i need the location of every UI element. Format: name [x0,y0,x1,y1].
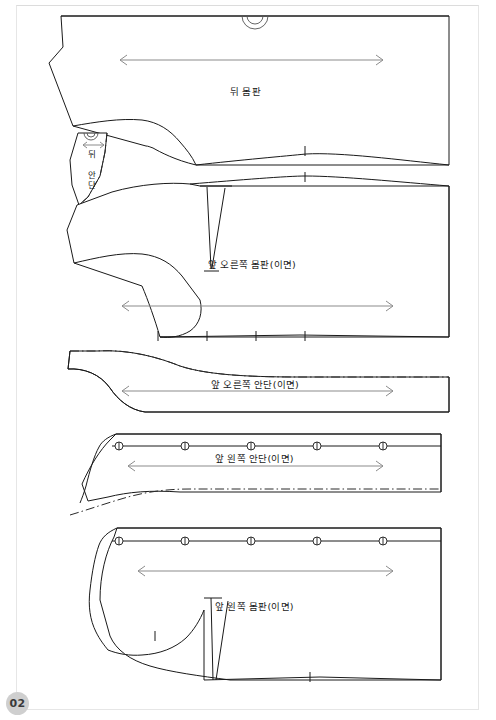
buttonhole-marker [247,537,255,545]
buttonhole-marker [115,537,123,545]
piece-label-back-facing: 뒤 안단 [86,150,95,191]
footer-text [17,714,478,720]
piece-label-front-left-body: 앞 왼쪽 몸판(이면) [215,599,294,613]
buttonhole-marker [379,537,387,545]
piece-label-front-right-facing: 앞 오른쪽 안단(이면) [211,377,299,391]
page-number-badge: 02 [6,692,29,715]
pattern-page: 뒤 몸판 뒤 안단 앞 오른쪽 몸판(이면) 앞 오른쪽 안단(이면) 앞 왼쪽… [0,0,496,720]
buttonhole-marker [115,442,123,450]
piece-label-front-left-facing: 앞 왼쪽 안단(이면) [215,451,294,465]
buttonhole-marker [313,442,321,450]
buttonhole-marker [247,442,255,450]
buttonhole-marker [181,537,189,545]
buttonhole-marker [313,537,321,545]
buttonhole-marker [379,442,387,450]
piece-label-front-right-body: 앞 오른쪽 몸판(이면) [208,257,296,271]
buttonhole-marker [181,442,189,450]
piece-label-back-body: 뒤 몸판 [230,84,261,98]
pattern-piece-front-left-facing [70,434,441,515]
